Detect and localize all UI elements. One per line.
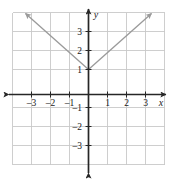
x-axis-label: x: [158, 97, 164, 108]
x-tick-label-pos2: 2: [124, 98, 129, 108]
x-tick-label-pos1: 1: [105, 98, 110, 108]
x-tick-label-pos3: 3: [143, 98, 148, 108]
y-tick-label-pos1: 1: [77, 65, 82, 75]
y-tick-label-neg2: –2: [72, 122, 83, 132]
y-axis-label: y: [93, 9, 99, 20]
x-tick-label-neg3: –3: [26, 98, 37, 108]
coordinate-graph-figure: –3 –2 –1 1 2 3 3 2 1 –1 –2 –3 x y: [0, 0, 174, 182]
x-tick-label-neg2: –2: [45, 98, 56, 108]
graph-canvas: –3 –2 –1 1 2 3 3 2 1 –1 –2 –3 x y: [0, 0, 174, 182]
y-tick-label-neg3: –3: [72, 141, 83, 151]
y-tick-label-pos2: 2: [77, 46, 82, 56]
y-tick-label-pos3: 3: [77, 27, 82, 37]
y-tick-label-neg1: –1: [72, 103, 83, 113]
